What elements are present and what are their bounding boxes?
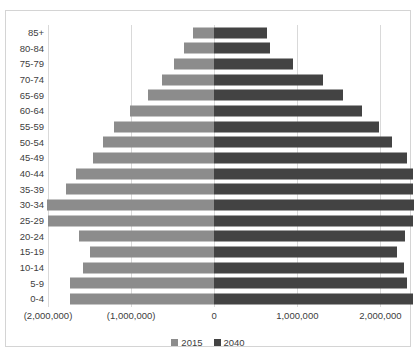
y-axis-label: 65-69 xyxy=(4,91,44,101)
bar-row xyxy=(48,166,417,182)
bar-2040 xyxy=(214,184,412,195)
x-axis-label: 2,000,000 xyxy=(359,311,401,321)
bar-row xyxy=(48,150,417,166)
legend-label: 2015 xyxy=(181,338,202,348)
bar-2015 xyxy=(184,43,214,54)
bar-2015 xyxy=(174,59,214,70)
bar-2015 xyxy=(114,121,214,132)
bar-row xyxy=(48,197,417,213)
bar-2015 xyxy=(76,168,215,179)
legend-swatch-icon xyxy=(171,339,178,346)
bar-row xyxy=(48,135,417,151)
y-axis-label: 60-64 xyxy=(4,106,44,116)
y-axis-label: 70-74 xyxy=(4,75,44,85)
bar-row xyxy=(48,72,417,88)
y-axis-label: 30-34 xyxy=(4,200,44,210)
bar-row xyxy=(48,56,417,72)
bar-2015 xyxy=(79,231,214,242)
x-axis-label: 1,000,000 xyxy=(276,311,318,321)
y-axis-label: 5-9 xyxy=(4,279,44,289)
y-axis-label: 20-24 xyxy=(4,232,44,242)
bar-2040 xyxy=(214,27,267,38)
bar-2015 xyxy=(193,27,214,38)
bar-row xyxy=(48,25,417,41)
legend-item[interactable]: 2015 xyxy=(171,338,202,348)
x-axis-label: 0 xyxy=(212,311,217,321)
y-axis-label: 40-44 xyxy=(4,169,44,179)
bar-2040 xyxy=(214,43,269,54)
bar-row xyxy=(48,41,417,57)
bar-row xyxy=(48,260,417,276)
bar-row xyxy=(48,213,417,229)
y-axis-label: 45-49 xyxy=(4,153,44,163)
bar-2040 xyxy=(214,294,412,305)
bar-2040 xyxy=(214,153,407,164)
bar-2040 xyxy=(214,262,403,273)
y-axis-label: 55-59 xyxy=(4,122,44,132)
bar-2015 xyxy=(48,215,214,226)
bar-2040 xyxy=(214,121,379,132)
y-axis-label: 75-79 xyxy=(4,59,44,69)
bar-2040 xyxy=(214,247,397,258)
bar-2015 xyxy=(90,247,214,258)
bar-row xyxy=(48,103,417,119)
bar-2040 xyxy=(214,215,412,226)
y-axis-label: 0-4 xyxy=(4,294,44,304)
bar-2015 xyxy=(162,74,214,85)
y-axis-label: 80-84 xyxy=(4,44,44,54)
chart-legend: 20152040 xyxy=(6,338,410,348)
bar-2040 xyxy=(214,59,293,70)
bar-2015 xyxy=(70,294,214,305)
bar-2040 xyxy=(214,137,391,148)
bar-2015 xyxy=(148,90,214,101)
y-axis-label: 25-29 xyxy=(4,216,44,226)
bar-row xyxy=(48,291,417,307)
bar-2015 xyxy=(83,262,214,273)
bar-2040 xyxy=(214,168,412,179)
chart-container: 0-45-910-1415-1920-2425-2930-3435-3940-4… xyxy=(5,10,411,347)
plot-area xyxy=(48,25,417,307)
x-axis-tick-labels: (2,000,000)(1,000,000)01,000,0002,000,00… xyxy=(6,311,412,327)
bar-2015 xyxy=(103,137,214,148)
bar-2015 xyxy=(93,153,214,164)
bar-row xyxy=(48,229,417,245)
bar-2040 xyxy=(214,200,413,211)
legend-item[interactable]: 2040 xyxy=(214,338,245,348)
y-axis-category-labels: 0-45-910-1415-1920-2425-2930-3435-3940-4… xyxy=(6,25,44,307)
y-axis-label: 15-19 xyxy=(4,247,44,257)
y-axis-label: 85+ xyxy=(4,28,44,38)
y-axis-label: 10-14 xyxy=(4,263,44,273)
legend-swatch-icon xyxy=(214,339,221,346)
bar-2040 xyxy=(214,106,361,117)
x-axis-label: (2,000,000) xyxy=(24,311,73,321)
bar-row xyxy=(48,182,417,198)
bar-2040 xyxy=(214,90,343,101)
bar-2040 xyxy=(214,231,405,242)
bar-2040 xyxy=(214,74,323,85)
y-axis-label: 50-54 xyxy=(4,138,44,148)
bar-row xyxy=(48,276,417,292)
bar-2015 xyxy=(130,106,214,117)
x-axis-label: (1,000,000) xyxy=(107,311,156,321)
bar-row xyxy=(48,119,417,135)
bar-2015 xyxy=(66,184,214,195)
legend-label: 2040 xyxy=(224,338,245,348)
bar-row xyxy=(48,88,417,104)
bar-2015 xyxy=(47,200,214,211)
bar-row xyxy=(48,244,417,260)
bar-2015 xyxy=(70,278,214,289)
y-axis-label: 35-39 xyxy=(4,185,44,195)
bar-2040 xyxy=(214,278,407,289)
